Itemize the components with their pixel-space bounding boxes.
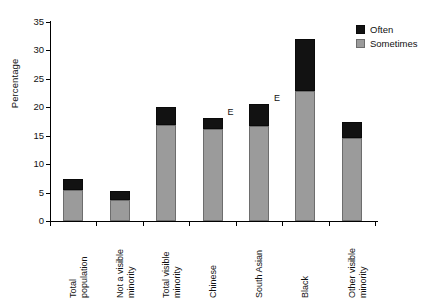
x-axis-label: Total visible minority — [161, 228, 182, 298]
bar-group[interactable] — [110, 22, 130, 221]
y-tick-mark — [46, 50, 50, 51]
y-tick-label: 15 — [33, 131, 44, 141]
bar-group[interactable] — [63, 22, 83, 221]
stacked-bar-chart: Percentage 05101520253035 EE Total popul… — [0, 0, 428, 303]
y-tick-label: 35 — [33, 17, 44, 27]
bar-segment-often[interactable] — [63, 179, 83, 190]
bar-segment-often[interactable] — [203, 118, 223, 129]
x-axis-label: Total population — [68, 228, 89, 298]
x-tick-mark — [96, 221, 97, 226]
x-tick-mark — [329, 221, 330, 226]
x-axis-label: Black — [300, 228, 311, 298]
bar-segment-sometimes[interactable] — [249, 126, 269, 221]
legend-label: Often — [370, 24, 393, 35]
x-tick-mark — [50, 221, 51, 226]
legend-label: Sometimes — [370, 38, 418, 49]
bar-segment-often[interactable] — [249, 104, 269, 126]
legend-item[interactable]: Often — [356, 24, 418, 35]
bar-group[interactable] — [156, 22, 176, 221]
y-tick-label: 0 — [39, 216, 44, 226]
bar-group[interactable] — [295, 22, 315, 221]
legend-item[interactable]: Sometimes — [356, 38, 418, 49]
y-tick-mark — [46, 136, 50, 137]
x-tick-mark — [282, 221, 283, 226]
bar-segment-sometimes[interactable] — [156, 125, 176, 221]
bar-segment-sometimes[interactable] — [110, 200, 130, 221]
y-tick-label: 20 — [33, 103, 44, 113]
x-axis-label: Chinese — [208, 228, 219, 298]
x-tick-mark — [375, 221, 376, 226]
bar-segment-often[interactable] — [156, 107, 176, 125]
x-tick-mark — [189, 221, 190, 226]
bar-segment-often[interactable] — [295, 39, 315, 91]
bar-segment-sometimes[interactable] — [295, 91, 315, 221]
x-tick-mark — [236, 221, 237, 226]
y-tick-label: 30 — [33, 46, 44, 56]
y-tick-mark — [46, 193, 50, 194]
y-tick-label: 5 — [39, 188, 44, 198]
x-axis-label: Not a visible minority — [115, 228, 136, 298]
chart-legend: OftenSometimes — [356, 24, 418, 52]
bar-segment-sometimes[interactable] — [203, 129, 223, 221]
y-tick-mark — [46, 164, 50, 165]
x-axis-label: South Asian — [254, 228, 265, 298]
y-axis-title: Percentage — [9, 39, 20, 129]
y-tick-mark — [46, 22, 50, 23]
bar-segment-often[interactable] — [342, 122, 362, 138]
x-axis-label: Other visible minority — [347, 228, 368, 298]
bar-group[interactable] — [249, 22, 269, 221]
y-tick-label: 25 — [33, 74, 44, 84]
y-tick-mark — [46, 79, 50, 80]
bar-segment-sometimes[interactable] — [342, 138, 362, 221]
bar-group[interactable] — [203, 22, 223, 221]
bar-segment-often[interactable] — [110, 191, 130, 200]
x-tick-mark — [143, 221, 144, 226]
bar-annotation-e: E — [228, 107, 234, 117]
y-tick-mark — [46, 107, 50, 108]
bar-annotation-e: E — [274, 93, 280, 103]
legend-swatch-often — [356, 25, 365, 34]
legend-swatch-sometimes — [356, 39, 365, 48]
y-tick-label: 10 — [33, 159, 44, 169]
bar-segment-sometimes[interactable] — [63, 190, 83, 221]
plot-area: 05101520253035 EE — [50, 22, 375, 221]
